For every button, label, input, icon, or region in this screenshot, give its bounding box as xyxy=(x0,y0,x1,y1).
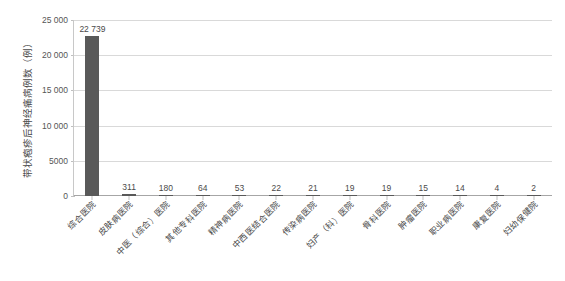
x-axis-label-slot: 职业病医院 xyxy=(441,197,478,267)
bar[interactable] xyxy=(85,36,99,196)
bar-slot: 311 xyxy=(111,20,148,196)
bar-slot: 14 xyxy=(442,20,479,196)
bar-series: 22 739311180645322211919151442 xyxy=(74,20,552,196)
x-axis-label-slot: 妇产（科）医院 xyxy=(330,197,367,267)
y-axis-tick-label: 0 xyxy=(63,191,68,201)
bar-value-label: 4 xyxy=(494,183,499,193)
bar-slot: 15 xyxy=(405,20,442,196)
bar-slot: 180 xyxy=(148,20,185,196)
bar-value-label: 19 xyxy=(345,183,354,193)
y-axis-title-text: 带状疱疹后神经痛病例数（例） xyxy=(20,38,34,178)
y-axis-ticks: 0500010 00015 00020 00025 000 xyxy=(38,12,71,202)
bar-value-label: 22 xyxy=(271,183,280,193)
bar-value-label: 180 xyxy=(159,183,173,193)
bar-slot: 19 xyxy=(331,20,368,196)
bar-value-label: 311 xyxy=(122,182,136,192)
x-axis-label-slot: 骨科医院 xyxy=(367,197,404,267)
y-axis-tick-label: 15 000 xyxy=(42,85,68,95)
y-axis-tick-label: 25 000 xyxy=(42,15,68,25)
x-axis-category-label: 综合医院 xyxy=(66,199,99,232)
bar-slot: 22 xyxy=(258,20,295,196)
bar-value-label: 2 xyxy=(531,183,536,193)
bar-slot: 2 xyxy=(515,20,552,196)
y-axis-tick-label: 20 000 xyxy=(42,50,68,60)
bar-slot: 21 xyxy=(295,20,332,196)
y-axis-title: 带状疱疹后神经痛病例数（例） xyxy=(18,18,36,198)
y-axis-tick-label: 5000 xyxy=(49,156,68,166)
x-axis-labels: 综合医院皮肤病医院中医（综合）医院其他专科医院精神病医院中西医结合医院传染病医院… xyxy=(73,197,551,267)
bar-slot: 64 xyxy=(184,20,221,196)
bar-slot: 4 xyxy=(478,20,515,196)
y-axis-tick-label: 10 000 xyxy=(42,121,68,131)
bar-value-label: 21 xyxy=(308,183,317,193)
plot-area: 22 739311180645322211919151442 xyxy=(73,20,552,196)
bar-slot: 22 739 xyxy=(74,20,111,196)
bar-chart: 带状疱疹后神经痛病例数（例） 0500010 00015 00020 00025… xyxy=(0,0,565,281)
x-axis-label-slot: 妇幼保健院 xyxy=(514,197,551,267)
bar-value-label: 19 xyxy=(382,183,391,193)
bar-slot: 19 xyxy=(368,20,405,196)
bar-value-label: 14 xyxy=(455,183,464,193)
bar-value-label: 15 xyxy=(419,183,428,193)
bar-value-label: 22 739 xyxy=(79,24,105,34)
bar-value-label: 53 xyxy=(235,183,244,193)
bar-slot: 53 xyxy=(221,20,258,196)
bar-value-label: 64 xyxy=(198,183,207,193)
